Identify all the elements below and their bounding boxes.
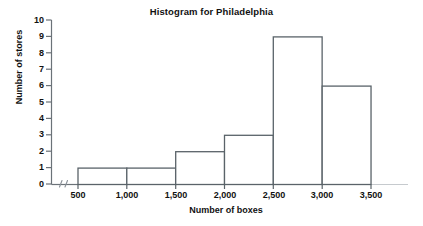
histogram-bar-500-1000	[78, 168, 127, 184]
y-axis-ticks	[46, 20, 52, 184]
histogram-bar-1500-2000	[176, 152, 225, 185]
histogram-bars	[78, 37, 371, 185]
histogram-bar-2500-3000	[273, 37, 322, 185]
histogram-bar-1000-1500	[127, 168, 176, 184]
histogram-figure: Histogram for Philadelphia Number of sto…	[0, 0, 423, 226]
x-axis-ticks	[78, 185, 371, 190]
histogram-bar-2000-2500	[225, 135, 274, 184]
histogram-bar-3000-3500	[322, 86, 371, 184]
plot-area	[0, 0, 423, 226]
axis-break-marks	[60, 181, 68, 188]
